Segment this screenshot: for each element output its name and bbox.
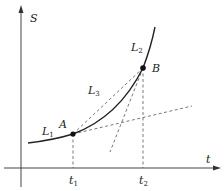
line-l3-label: L3 (87, 84, 100, 98)
tangent-line-b (110, 68, 143, 152)
point-a (70, 131, 75, 136)
point-b-label: B (151, 62, 160, 75)
secant-line-l3 (73, 68, 143, 134)
x-axis-label: t (206, 153, 211, 166)
y-axis-label: S (30, 12, 38, 25)
line-l1-label: L1 (41, 125, 54, 139)
tangent-line-a (73, 106, 192, 134)
diagram-canvas: S t A B L1 L2 L3 t1 t2 (0, 0, 224, 191)
tick-t2-label: t2 (139, 174, 148, 188)
point-b (140, 65, 146, 71)
tick-t1-label: t1 (69, 174, 78, 188)
line-l2-label: L2 (130, 41, 143, 55)
point-a-label: A (58, 118, 67, 131)
